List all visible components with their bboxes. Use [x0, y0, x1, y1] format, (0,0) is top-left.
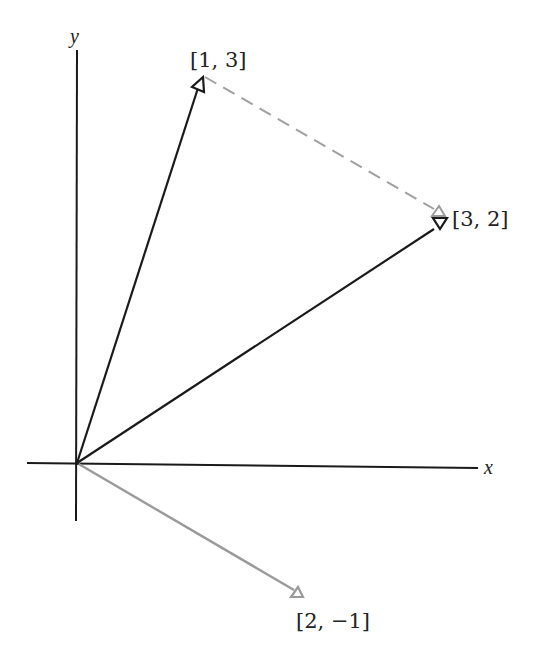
- axes: y x: [27, 25, 493, 521]
- vector-3-2: [3, 2]: [77, 207, 508, 463]
- y-axis: [76, 50, 77, 521]
- x-axis-label: x: [483, 456, 493, 478]
- y-axis-label: y: [68, 25, 79, 48]
- vector-3-2-label: [3, 2]: [452, 207, 508, 231]
- ghost-arrowhead-icon: [432, 206, 445, 216]
- vector-2-neg1: [2, −1]: [77, 463, 370, 633]
- vector-3-2-shaft: [77, 229, 434, 463]
- vector-2-neg1-label: [2, −1]: [296, 609, 370, 633]
- dashed-difference-connector: [205, 77, 434, 209]
- arrowhead-icon: [433, 218, 447, 229]
- vector-1-3: [1, 3]: [77, 48, 246, 463]
- vector-1-3-shaft: [77, 88, 198, 463]
- origin-point: [75, 461, 79, 465]
- arrowhead-icon: [192, 77, 204, 92]
- vector-diagram: y x [1, 3] [3, 2] [2, −1]: [0, 0, 534, 658]
- x-axis: [27, 463, 478, 468]
- vector-2-neg1-shaft: [77, 463, 294, 590]
- vector-1-3-label: [1, 3]: [190, 48, 246, 72]
